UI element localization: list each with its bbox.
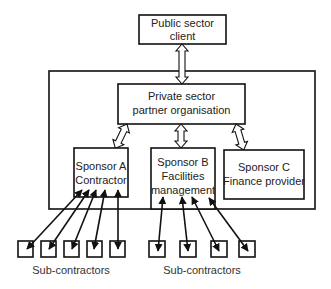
- sponsor-a-label-line2: Contractor: [75, 174, 127, 186]
- double-arrow-icon: [94, 190, 105, 249]
- sponsor-c-label-line2: Finance provider: [223, 175, 305, 187]
- partner-label-line2: partner organisation: [133, 104, 231, 116]
- sponsor-b-label-line2: Facilities: [162, 170, 205, 182]
- subcontractor-node: [18, 241, 33, 257]
- partner-label-line1: Private sector: [148, 90, 216, 102]
- private-sector-partner-node: Private sector partner organisation: [118, 84, 245, 124]
- subcontractor-node: [149, 241, 165, 257]
- sponsor-a-node: Sponsor A Contractor: [74, 148, 128, 197]
- sponsor-c-node: Sponsor C Finance provider: [223, 150, 305, 199]
- sponsor-b-label-line3: management: [151, 184, 215, 196]
- ppp-structure-diagram: Public sector client Private sector part…: [0, 0, 331, 289]
- subcontractors-label-right: Sub-contractors: [163, 264, 241, 276]
- sponsor-a-subcontractor-group: Sub-contractors: [18, 241, 125, 276]
- partner-sponsor-a-double-arrow-icon: [110, 121, 132, 151]
- sponsor-a-label-line1: Sponsor A: [76, 160, 127, 172]
- subcontractor-node: [211, 241, 227, 257]
- subcontractors-label-left: Sub-contractors: [32, 264, 110, 276]
- double-arrow-icon: [72, 190, 96, 249]
- sponsor-b-subcontractor-group: Sub-contractors: [149, 241, 255, 276]
- public-sector-client-node: Public sector client: [139, 15, 226, 44]
- sponsor-a-subcontractor-links: [27, 190, 118, 249]
- sponsor-b-label-line1: Sponsor B: [157, 156, 208, 168]
- partner-sponsor-c-double-arrow-icon: [230, 122, 249, 151]
- partner-sponsor-b-double-arrow-icon: [175, 124, 187, 148]
- sponsor-c-label-line1: Sponsor C: [238, 161, 290, 173]
- client-label-line2: client: [170, 30, 196, 42]
- client-label-line1: Public sector: [151, 17, 214, 29]
- subcontractor-node: [64, 241, 79, 257]
- client-partner-double-arrow-icon: [176, 44, 188, 84]
